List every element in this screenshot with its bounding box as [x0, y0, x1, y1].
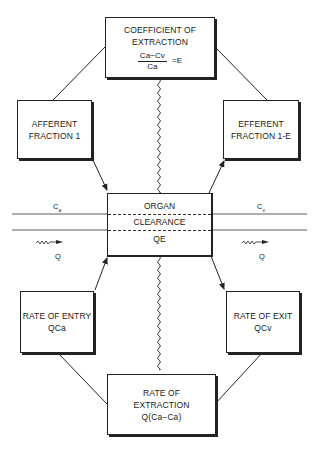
rate-of-extraction-box: RATE OF EXTRACTION Q(Ca−Ca)	[107, 374, 216, 435]
bottom-line3: Q(Ca−Ca)	[142, 411, 182, 423]
arrow-afferent-to-organ	[92, 158, 107, 190]
flow-arrow-left-icon	[36, 241, 58, 244]
bottom-line1: RATE OF	[143, 387, 180, 399]
organ-clearance-box: ORGAN CLEARANCE QE	[107, 193, 213, 257]
left-flow-label: Q	[55, 252, 61, 261]
connector-top-right	[215, 47, 267, 100]
entry-line2: QCa	[48, 322, 66, 334]
extraction-fraction: Ca−Cv Ca	[138, 51, 167, 72]
rate-of-entry-box: RATE OF ENTRY QCa	[20, 291, 94, 353]
exit-line2: QCv	[254, 322, 271, 334]
entry-line1: RATE OF ENTRY	[23, 310, 92, 322]
arrow-entry-to-organ	[95, 258, 107, 290]
qe-label: QE	[108, 234, 211, 244]
wavy-link-top	[158, 79, 161, 193]
organ-label: ORGAN	[108, 201, 211, 211]
right-flow-label: Q	[259, 252, 265, 261]
formula-result: =E	[172, 55, 182, 67]
arrow-organ-to-exit	[211, 256, 224, 289]
wavy-link-bottom	[158, 256, 161, 370]
arterial-sub: a	[58, 207, 61, 213]
connector-bottom-right	[215, 353, 262, 404]
flow-arrowhead-left-icon	[56, 240, 63, 244]
top-box-title-line2: EXTRACTION	[132, 36, 188, 48]
efferent-line2: FRACTION 1-E	[231, 130, 291, 142]
afferent-line1: AFFERENT	[32, 118, 78, 130]
organ-divider-lower	[108, 230, 211, 231]
flow-arrow-right-icon	[242, 241, 264, 244]
extraction-formula: Ca−Cv Ca =E	[138, 51, 182, 72]
connector-top-left	[53, 47, 105, 100]
top-box-title-line1: COEFFICIENT OF	[124, 24, 196, 36]
venous-concentration-label: Cv	[257, 202, 265, 213]
exit-line1: RATE OF EXIT	[234, 310, 293, 322]
arrow-organ-to-efferent	[209, 161, 224, 193]
efferent-line1: EFFERENT	[238, 118, 284, 130]
organ-divider-upper	[108, 214, 211, 215]
rate-of-exit-box: RATE OF EXIT QCv	[226, 291, 300, 353]
fraction-numerator: Ca−Cv	[138, 51, 167, 62]
venous-sub: v	[262, 207, 265, 213]
fraction-denominator: Ca	[147, 62, 157, 72]
afferent-fraction-box: AFFERENT FRACTION 1	[17, 100, 92, 159]
coefficient-of-extraction-box: COEFFICIENT OF EXTRACTION Ca−Cv Ca =E	[105, 17, 215, 78]
efferent-fraction-box: EFFERENT FRACTION 1-E	[223, 100, 299, 159]
connector-bottom-left	[58, 353, 107, 404]
clearance-label: CLEARANCE	[108, 217, 211, 227]
arterial-concentration-label: Ca	[53, 202, 61, 213]
flow-arrowhead-right-icon	[262, 240, 269, 244]
afferent-line2: FRACTION 1	[29, 130, 81, 142]
bottom-line2: EXTRACTION	[134, 399, 190, 411]
